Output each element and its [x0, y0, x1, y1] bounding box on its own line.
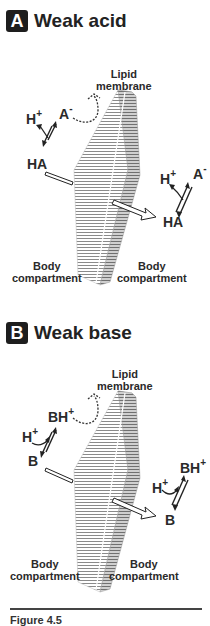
anion-left: A- [59, 103, 72, 122]
conjugate-acid-right: BH+ [180, 457, 206, 476]
transport-arrow [45, 468, 73, 483]
proton-left: H+ [26, 108, 42, 127]
neutral-left: B [28, 453, 38, 469]
neutral-left: HA [27, 156, 47, 172]
figure-caption: Figure 4.5 [10, 614, 62, 626]
neutral-right: B [165, 512, 175, 528]
membrane-diagram [0, 300, 210, 600]
compartment-left-label: Body compartment [12, 260, 82, 284]
dashed-ion-arrow [73, 396, 98, 424]
proton-right: H+ [152, 477, 168, 496]
membrane-label: Lipid membrane [97, 368, 153, 392]
conjugate-acid-left: BH+ [48, 406, 74, 425]
dashed-ion-arrow [73, 96, 98, 122]
panel-weak-base: B Weak base [0, 300, 210, 600]
panel-weak-acid: A Weak acid [0, 0, 210, 300]
caption-divider [10, 608, 202, 610]
proton-left: H+ [22, 426, 38, 445]
membrane-diagram [0, 0, 210, 300]
transport-arrow [45, 172, 73, 185]
anion-right: A- [193, 163, 206, 182]
compartment-right-label: Body compartment [109, 558, 179, 582]
neutral-right: HA [163, 214, 183, 230]
proton-right: H+ [160, 168, 176, 187]
compartment-right-label: Body compartment [117, 260, 187, 284]
membrane-label: Lipid membrane [96, 68, 152, 92]
compartment-left-label: Body compartment [10, 558, 80, 582]
